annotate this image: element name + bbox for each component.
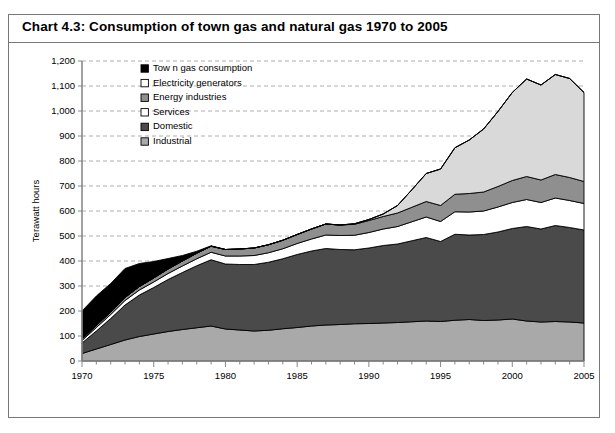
y-axis-tick-label: 1,000 xyxy=(51,105,75,116)
chart-legend: Tow n gas consumptionElectricity generat… xyxy=(141,62,252,146)
y-axis-tick-label: 900 xyxy=(59,130,75,141)
x-axis-tick-label: 1975 xyxy=(143,370,164,381)
y-axis-tick-label: 1,200 xyxy=(51,55,75,66)
y-axis-tick-label: 600 xyxy=(59,205,75,216)
legend-label-domestic: Domestic xyxy=(153,120,193,131)
y-axis-title-text: Terawatt hours xyxy=(30,180,41,243)
y-axis-tick-label: 200 xyxy=(59,305,75,316)
area-series-group xyxy=(82,75,584,362)
y-axis-tick-labels: 01002003004005006007008009001,0001,1001,… xyxy=(51,55,75,366)
legend-label-energy-industries: Energy industries xyxy=(153,91,227,102)
legend-label-services: Services xyxy=(153,106,190,117)
y-axis-tick-label: 400 xyxy=(59,255,75,266)
y-axis-tick-label: 300 xyxy=(59,280,75,291)
legend-label-electricity-generators: Electricity generators xyxy=(153,77,242,88)
y-axis-tick-label: 800 xyxy=(59,155,75,166)
x-axis-tick-label: 1985 xyxy=(287,370,308,381)
legend-swatch-town-gas-consumption xyxy=(141,65,148,72)
x-axis-tick-label: 1980 xyxy=(215,370,236,381)
x-axis-tick-label: 1990 xyxy=(358,370,379,381)
y-axis-tick-label: 1,100 xyxy=(51,80,75,91)
x-axis-tick-label: 2000 xyxy=(502,370,523,381)
y-axis-title: Terawatt hours xyxy=(30,180,41,243)
y-axis-tick-label: 0 xyxy=(70,355,75,366)
chart-title-bar: Chart 4.3: Consumption of town gas and n… xyxy=(9,15,599,43)
x-axis-tick-label: 1970 xyxy=(71,370,92,381)
legend-swatch-electricity-generators xyxy=(141,79,148,86)
x-axis-tick-label: 1995 xyxy=(430,370,451,381)
legend-swatch-industrial xyxy=(141,138,148,145)
legend-swatch-services xyxy=(141,109,148,116)
y-axis-tick-label: 500 xyxy=(59,230,75,241)
x-axis-tick-label: 2005 xyxy=(573,370,594,381)
chart-area: 01002003004005006007008009001,0001,1001,… xyxy=(9,43,599,418)
legend-label-industrial: Industrial xyxy=(153,135,192,146)
y-axis-tick-label: 100 xyxy=(59,330,75,341)
page-title: Chart 4.3: Consumption of town gas and n… xyxy=(22,19,448,34)
chart-frame: Chart 4.3: Consumption of town gas and n… xyxy=(8,14,600,418)
stacked-area-chart: 01002003004005006007008009001,0001,1001,… xyxy=(9,43,601,418)
x-axis-tick-labels: 19701975198019851990199520002005 xyxy=(71,370,594,381)
legend-swatch-domestic xyxy=(141,123,148,130)
y-axis-tick-label: 700 xyxy=(59,180,75,191)
legend-swatch-energy-industries xyxy=(141,94,148,101)
legend-label-town-gas-consumption: Tow n gas consumption xyxy=(153,62,252,73)
